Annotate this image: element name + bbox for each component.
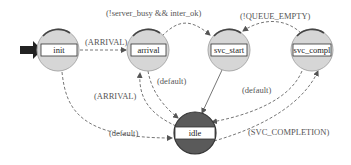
state-init-label: init: [53, 45, 65, 55]
label-init-arrival: (ARRIVAL): [85, 37, 128, 47]
label-arrival-svc-start: (!server_busy && inter_ok): [106, 8, 202, 18]
label-arrival-idle: (default): [157, 76, 186, 86]
edge-arrival-svc-start: [162, 23, 210, 36]
label-idle-svc-compl: (SVC_COMPLETION): [248, 127, 329, 137]
state-idle[interactable]: idle: [174, 112, 216, 154]
label-idle-arrival: (ARRIVAL): [94, 91, 137, 101]
label-init-idle: (default): [109, 128, 138, 138]
state-diagram: init arrival svc_start svc_compl idle (A…: [0, 0, 351, 165]
label-svc-compl-idle: (default): [242, 85, 271, 95]
edge-svc-start-idle: [202, 70, 222, 113]
state-arrival[interactable]: arrival: [127, 29, 169, 71]
state-svc-start[interactable]: svc_start: [208, 29, 250, 71]
state-svc-compl-label: svc_compl: [294, 45, 331, 55]
state-init[interactable]: init: [37, 29, 79, 71]
label-svc-compl-svc-start: (!QUEUE_EMPTY): [240, 11, 311, 21]
state-idle-label: idle: [189, 128, 202, 138]
state-arrival-label: arrival: [137, 45, 160, 55]
edge-svc-compl-svc-start: [243, 21, 301, 33]
state-svc-compl[interactable]: svc_compl: [291, 29, 333, 71]
edge-svc-compl-idle: [212, 71, 302, 122]
state-svc-start-label: svc_start: [214, 45, 245, 55]
